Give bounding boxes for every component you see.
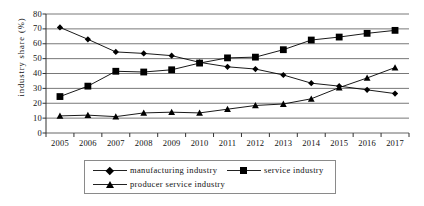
data-point-marker: [336, 34, 343, 41]
data-point-marker: [364, 75, 371, 81]
data-point-marker: [224, 54, 231, 61]
y-axis-tick-label: 80: [20, 10, 42, 19]
legend-item-service-industry: service industry: [227, 164, 324, 177]
line-chart: industry share (%) 80706050403020100 200…: [0, 0, 424, 206]
data-point-marker: [392, 90, 398, 96]
y-axis-tick-label: 70: [20, 24, 42, 33]
data-point-marker: [280, 46, 287, 53]
y-axis-tick-label: 10: [20, 114, 42, 123]
legend-label-producer-service-industry: producer service industry: [127, 180, 225, 189]
plot-svg: [46, 14, 409, 133]
data-point-marker: [57, 93, 64, 100]
data-point-marker: [169, 53, 175, 59]
y-axis-tick-label: 0: [20, 129, 42, 138]
data-point-marker: [308, 95, 315, 101]
legend-item-producer-service-industry: producer service industry: [93, 178, 225, 191]
data-point-marker: [252, 54, 259, 61]
data-point-marker: [392, 64, 399, 70]
data-point-marker: [140, 69, 147, 76]
data-point-marker: [84, 83, 91, 90]
diamond-marker-icon: [93, 165, 127, 177]
y-axis-tick-label: 30: [20, 84, 42, 93]
data-point-marker: [252, 66, 258, 72]
x-axis-tick-label: 2017: [378, 138, 412, 148]
y-axis-tick-label: 50: [20, 54, 42, 63]
chart-legend: manufacturing industry service industry …: [84, 160, 336, 194]
data-point-marker: [336, 84, 343, 90]
data-point-marker: [224, 64, 230, 70]
data-point-marker: [364, 30, 371, 37]
legend-label-manufacturing-industry: manufacturing industry: [127, 166, 217, 175]
square-marker-icon: [227, 165, 261, 177]
data-point-marker: [308, 37, 315, 44]
y-axis-tick-label: 60: [20, 39, 42, 48]
data-point-marker: [85, 36, 91, 42]
data-point-marker: [364, 87, 370, 93]
data-point-marker: [168, 66, 175, 73]
y-axis-tick-label: 20: [20, 99, 42, 108]
plot-area: [46, 14, 409, 133]
data-point-marker: [280, 72, 286, 78]
data-point-marker: [141, 50, 147, 56]
legend-item-manufacturing-industry: manufacturing industry: [93, 164, 217, 177]
data-point-marker: [57, 24, 63, 30]
data-point-marker: [392, 27, 399, 34]
legend-label-service-industry: service industry: [261, 166, 324, 175]
x-axis-tick-labels: 2005200620072008200920102011201220132014…: [46, 138, 409, 152]
y-axis-tick-label: 40: [20, 69, 42, 78]
data-point-marker: [113, 49, 119, 55]
data-point-marker: [196, 60, 203, 67]
triangle-marker-icon: [93, 179, 127, 191]
data-point-marker: [308, 80, 314, 86]
data-point-marker: [112, 68, 119, 75]
y-axis-tick-labels: 80706050403020100: [18, 14, 42, 133]
